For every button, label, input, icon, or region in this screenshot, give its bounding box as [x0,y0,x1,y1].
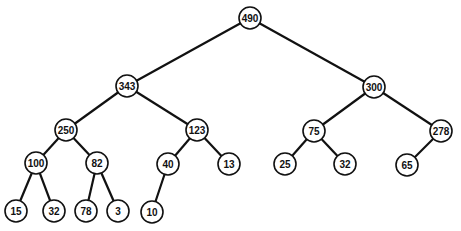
tree-edge-n343-n123 [127,86,197,130]
node-label: 100 [28,158,45,169]
tree-edge-n490-n343 [127,18,250,86]
node-label: 3 [115,206,121,217]
tree-edge-n300-n278 [374,87,441,131]
node-label: 32 [48,206,60,217]
tree-node: 75 [303,120,325,142]
node-label: 32 [339,159,351,170]
tree-diagram: 4903433002501237527810082401325326515327… [0,0,461,231]
node-label: 250 [58,125,75,136]
tree-node: 123 [186,119,208,141]
tree-node: 15 [5,200,27,222]
tree-node: 100 [25,152,47,174]
node-label: 300 [366,82,383,93]
node-label: 40 [162,159,174,170]
tree-node: 32 [43,200,65,222]
tree-nodes: 4903433002501237527810082401325326515327… [5,7,452,223]
tree-edges [16,18,441,212]
node-label: 10 [146,207,158,218]
node-label: 13 [223,159,235,170]
tree-node: 13 [218,153,240,175]
node-label: 15 [10,206,22,217]
node-label: 65 [401,160,413,171]
tree-node: 65 [396,154,418,176]
node-label: 490 [242,13,259,24]
tree-node: 300 [363,76,385,98]
tree-node: 25 [274,153,296,175]
tree-node: 278 [430,120,452,142]
node-label: 123 [189,125,206,136]
tree-node: 3 [107,200,129,222]
node-label: 82 [91,158,103,169]
node-label: 25 [279,159,291,170]
tree-node: 78 [75,200,97,222]
tree-node: 490 [239,7,261,29]
tree-node: 32 [334,153,356,175]
tree-node: 343 [116,75,138,97]
tree-node: 82 [86,152,108,174]
node-label: 278 [433,126,450,137]
node-label: 75 [308,126,320,137]
tree-node: 250 [55,119,77,141]
tree-node: 40 [157,153,179,175]
node-label: 78 [80,206,92,217]
tree-node: 10 [141,201,163,223]
tree-edge-n490-n300 [250,18,374,87]
node-label: 343 [119,81,136,92]
